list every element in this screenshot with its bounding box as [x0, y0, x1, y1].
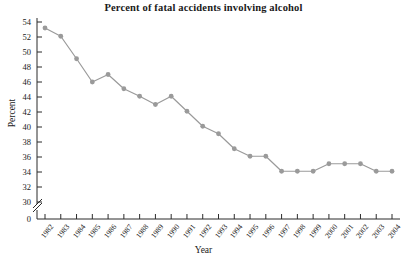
data-point	[121, 86, 126, 91]
data-point	[248, 154, 253, 159]
y-axis-ticks	[37, 22, 42, 202]
data-point	[327, 161, 332, 166]
data-point	[169, 94, 174, 99]
data-point	[311, 169, 316, 174]
data-point	[216, 131, 221, 136]
data-point	[137, 94, 142, 99]
data-point	[106, 72, 111, 77]
data-point	[74, 56, 79, 61]
axis-lines	[37, 18, 400, 219]
data-point	[358, 161, 363, 166]
data-point	[90, 80, 95, 85]
data-point	[43, 26, 48, 31]
data-point	[390, 169, 395, 174]
data-point	[295, 169, 300, 174]
data-series-markers	[43, 26, 395, 174]
data-point	[200, 124, 205, 129]
data-point	[232, 146, 237, 151]
data-point	[263, 154, 268, 159]
data-series-line	[45, 28, 392, 171]
data-point	[374, 169, 379, 174]
data-point	[58, 34, 63, 39]
x-axis-ticks	[45, 214, 392, 219]
data-point	[342, 161, 347, 166]
plot-area	[0, 0, 407, 263]
data-point	[185, 109, 190, 114]
data-point	[279, 169, 284, 174]
data-point	[153, 102, 158, 107]
chart-container: Percent of fatal accidents involving alc…	[0, 0, 407, 263]
